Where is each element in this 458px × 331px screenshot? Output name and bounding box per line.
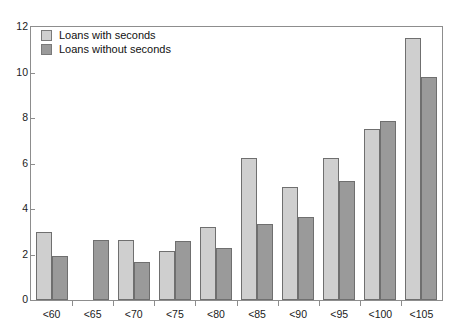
y-axis-tick-mark xyxy=(30,209,35,210)
x-axis-tick-label: <95 xyxy=(330,309,348,320)
bar-group xyxy=(237,27,278,300)
x-axis-tick-mark xyxy=(319,301,320,306)
legend-label: Loans without seconds xyxy=(59,44,171,55)
x-axis-tick-label: <75 xyxy=(166,309,184,320)
bar xyxy=(36,232,52,300)
bar xyxy=(323,158,339,300)
x-axis-tick-label: <100 xyxy=(369,309,393,320)
x-axis-tick-label: <85 xyxy=(248,309,266,320)
bar xyxy=(200,227,216,300)
bar xyxy=(52,256,68,300)
y-axis-tick-label: 0 xyxy=(4,294,28,305)
y-axis-tick-label: 12 xyxy=(4,21,28,32)
legend-label: Loans with seconds xyxy=(59,30,156,41)
bar xyxy=(364,129,380,300)
x-axis-tick-mark xyxy=(237,301,238,306)
x-axis-tick-mark xyxy=(72,301,73,306)
bar xyxy=(175,241,191,300)
bar xyxy=(339,181,355,300)
bar-group xyxy=(278,27,319,300)
bar xyxy=(241,158,257,300)
legend-swatch-icon-dark xyxy=(41,44,52,55)
bar-group xyxy=(195,27,236,300)
bar-group xyxy=(319,27,360,300)
y-axis: 024681012 xyxy=(0,26,28,301)
bar-group xyxy=(360,27,401,300)
legend-item-loans-with-seconds: Loans with seconds xyxy=(41,29,171,42)
x-axis-tick-mark xyxy=(360,301,361,306)
bar xyxy=(93,240,109,300)
y-axis-tick-mark xyxy=(30,164,35,165)
bar-group xyxy=(154,27,195,300)
bar xyxy=(216,248,232,300)
bar xyxy=(282,187,298,300)
bar xyxy=(380,121,396,300)
y-axis-tick-mark xyxy=(30,73,35,74)
y-axis-tick-label: 6 xyxy=(4,157,28,168)
y-axis-tick-mark xyxy=(30,118,35,119)
bar xyxy=(257,224,273,300)
bar-group xyxy=(113,27,154,300)
x-axis-tick-mark xyxy=(401,301,402,306)
x-axis-tick-label: <90 xyxy=(289,309,307,320)
bar xyxy=(298,217,314,300)
x-axis-tick-mark xyxy=(113,301,114,306)
bar xyxy=(159,251,175,300)
x-axis-tick-label: <65 xyxy=(84,309,102,320)
legend-item-loans-without-seconds: Loans without seconds xyxy=(41,43,171,56)
y-axis-tick-mark xyxy=(30,255,35,256)
x-axis-tick-mark xyxy=(278,301,279,306)
legend-swatch-icon-light xyxy=(41,30,52,41)
bar-group xyxy=(31,27,72,300)
bar-chart: 024681012 Loans with seconds Loans witho… xyxy=(0,0,458,331)
y-axis-tick-label: 4 xyxy=(4,203,28,214)
bar xyxy=(118,240,134,300)
x-axis-tick-label: <80 xyxy=(207,309,225,320)
bar-group xyxy=(401,27,442,300)
x-axis-tick-label: <70 xyxy=(125,309,143,320)
bar-group xyxy=(72,27,113,300)
x-axis-tick-label: <105 xyxy=(410,309,434,320)
x-axis-tick-label: <60 xyxy=(43,309,61,320)
x-axis-tick-mark xyxy=(195,301,196,306)
y-axis-tick-label: 8 xyxy=(4,112,28,123)
bar xyxy=(405,38,421,300)
clipped-header-text xyxy=(70,0,390,6)
y-axis-tick-label: 2 xyxy=(4,248,28,259)
bars-layer xyxy=(31,27,442,300)
legend: Loans with seconds Loans without seconds xyxy=(41,29,171,57)
y-axis-tick-label: 10 xyxy=(4,66,28,77)
bar xyxy=(134,262,150,300)
bar xyxy=(421,77,437,300)
x-axis-tick-mark xyxy=(154,301,155,306)
